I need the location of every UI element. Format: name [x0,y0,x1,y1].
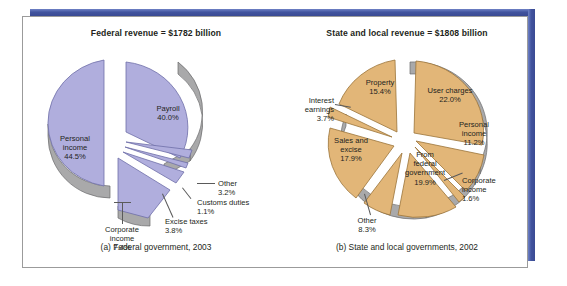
caption-federal: (a) Federal government, 2003 [22,242,290,252]
leader-line-corporate [122,202,123,224]
accent-bar-top [30,9,535,16]
label-state-interest-earnings: Interest earnings 3.7% [286,96,334,124]
label-state-other: Other 8.3% [344,216,390,234]
label-state-corporate-income: Corporate income 1.6% [462,176,524,204]
leader-line-corporate-tick [114,202,131,203]
figure-pie-charts: Federal revenue = $1782 billion [0,0,567,286]
chart-title-state-local: State and local revenue = $1808 billion [286,28,528,38]
label-state-user-charges: User charges 22.0% [412,86,488,104]
label-federal-payroll: Payroll 40.0% [140,104,196,122]
caption-state-local: (b) State and local governments, 2002 [286,242,528,252]
panel-federal: Federal revenue = $1782 billion [22,16,290,268]
label-state-personal-income: Personal income 11.2% [446,120,502,148]
leader-line-other [197,183,215,184]
panel-state-local: State and local revenue = $1808 billion [286,16,528,268]
label-federal-other: Other 3.2% [218,179,278,197]
label-state-sales-excise: Sales and excise 17.9% [320,136,382,164]
label-state-from-federal: From federal government 19.9% [390,150,460,187]
label-federal-customs-duties: Customs duties 1.1% [197,198,285,216]
label-state-property: Property 15.4% [352,78,408,96]
chart-title-federal: Federal revenue = $1782 billion [22,28,290,38]
label-federal-personal-income: Personal income 44.5% [42,134,108,162]
label-federal-excise-taxes: Excise taxes 3.8% [165,217,237,235]
accent-bar-right [528,9,535,261]
